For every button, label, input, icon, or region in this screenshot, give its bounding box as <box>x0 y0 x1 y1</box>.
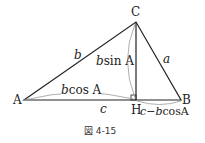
figure-caption: 図 4-15 <box>84 124 116 137</box>
brace-remainder <box>137 101 181 105</box>
c-minus-bcosa-label: c−bcosA <box>140 106 189 117</box>
side-a-label: a <box>163 53 170 65</box>
vertex-a-label: A <box>13 94 22 106</box>
triangle-diagram <box>0 0 205 143</box>
side-b-label: b <box>74 49 82 61</box>
bcosa-label: bcos A <box>61 84 101 96</box>
side-c-label: c <box>100 103 107 115</box>
bsina-label: bsin A <box>96 55 134 67</box>
vertex-c-label: C <box>131 6 140 18</box>
